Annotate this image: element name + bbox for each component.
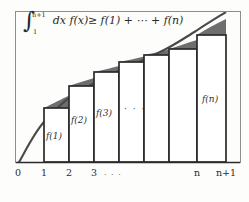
tick-label-1: 1 xyxy=(38,167,50,178)
integral-lower-limit: 1 xyxy=(33,29,47,36)
inequality-sign: ≥ xyxy=(88,14,97,27)
bar-label-fn: f(n) xyxy=(202,94,218,104)
tick-label-n: n xyxy=(191,167,203,178)
riemann-bars xyxy=(44,35,226,162)
middle-ellipsis: · · · xyxy=(124,104,146,114)
tick-label-0: 0 xyxy=(12,167,24,178)
inequality-right-side: f(1) + ⋯ + f(n) xyxy=(101,14,184,27)
bar-label-f1: f(1) xyxy=(46,131,62,141)
tick-label-n-plus-1: n+1 xyxy=(214,167,238,178)
integral-inequality-formula: ∫n+11dx f(x) ≥ f(1) + ⋯ + f(n) xyxy=(23,14,183,28)
bar-5 xyxy=(144,55,169,162)
axis-ellipsis: · · · xyxy=(104,170,122,179)
integral-body: dx f(x) xyxy=(53,14,89,27)
integral-limits: n+11 xyxy=(32,12,46,26)
bar-label-f2: f(2) xyxy=(71,115,87,125)
tick-label-2: 2 xyxy=(63,167,75,178)
integral-upper-limit: n+1 xyxy=(32,12,46,19)
figure-container: ∫n+11dx f(x) ≥ f(1) + ⋯ + f(n) f(1) f(2)… xyxy=(0,0,249,202)
bar-6 xyxy=(169,49,197,162)
bar-label-f3: f(3) xyxy=(96,108,112,118)
tick-label-3: 3 xyxy=(88,167,100,178)
